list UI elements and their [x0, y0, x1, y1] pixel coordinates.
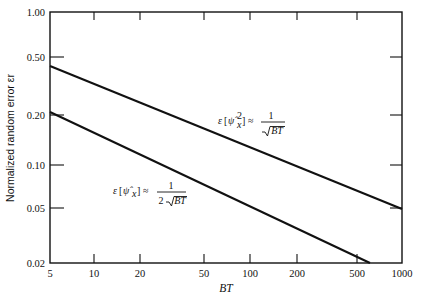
- x-tick-label: 10: [89, 268, 100, 279]
- right-axis-ticks: [390, 57, 402, 208]
- annotation-upper-bracket-open: [: [224, 115, 227, 126]
- x-tick-label: 200: [289, 268, 305, 279]
- annotation-lower-denominator-coefficient: 2: [159, 195, 164, 206]
- bottom-axis-ticks: [94, 254, 357, 263]
- x-tick-label: 100: [242, 268, 258, 279]
- x-tick-label: 500: [349, 268, 365, 279]
- x-tick-labels: 5 10 20 50 100 200 500 1000: [47, 268, 412, 279]
- annotation-upper-radicand: BT: [271, 125, 284, 136]
- y-tick-label: 1.00: [27, 7, 45, 18]
- y-tick-label: 0.10: [27, 160, 45, 171]
- x-tick-label: 1000: [392, 268, 413, 279]
- y-tick-label: 0.02: [27, 258, 45, 269]
- annotation-lower-bracket-close: ]: [137, 185, 140, 196]
- y-tick-label: 0.50: [27, 52, 45, 63]
- annotation-lower-approx: ≈: [143, 185, 149, 196]
- x-tick-label: 5: [47, 268, 52, 279]
- annotation-upper-bracket-close: ]: [242, 115, 245, 126]
- annotation-upper-numerator: 1: [269, 110, 274, 121]
- y-tick-label: 0.20: [27, 110, 45, 121]
- y-tick-labels: 1.00 0.50 0.20 0.10 0.05 0.02: [27, 7, 45, 269]
- annotation-upper-approx: ≈: [248, 115, 254, 126]
- x-axis-title: BT: [219, 282, 234, 294]
- y-tick-label: 0.05: [27, 203, 45, 214]
- chart-svg: 1.00 0.50 0.20 0.10 0.05 0.02 5 10 20 50…: [0, 0, 429, 300]
- left-axis-ticks: [50, 57, 64, 208]
- annotation-upper-formula: ε [ ψ̂ 2 x ] ≈ 1 BT: [218, 110, 285, 136]
- chart-figure: 1.00 0.50 0.20 0.10 0.05 0.02 5 10 20 50…: [0, 0, 429, 300]
- annotation-lower-radicand: BT: [174, 195, 187, 206]
- annotation-lower-numerator: 1: [169, 180, 174, 191]
- top-axis-ticks: [94, 12, 357, 20]
- annotation-upper-epsilon: ε: [218, 115, 222, 126]
- series-line-lower: [50, 112, 370, 263]
- x-tick-label: 20: [135, 268, 146, 279]
- annotation-lower-bracket-open: [: [119, 185, 122, 196]
- annotation-lower-epsilon: ε: [113, 185, 117, 196]
- y-axis-title: Normalized random error εr: [4, 74, 16, 202]
- x-tick-label: 50: [199, 268, 210, 279]
- annotation-lower-formula: ε [ ψ̂ x ] ≈ 1 2 BT: [113, 180, 187, 206]
